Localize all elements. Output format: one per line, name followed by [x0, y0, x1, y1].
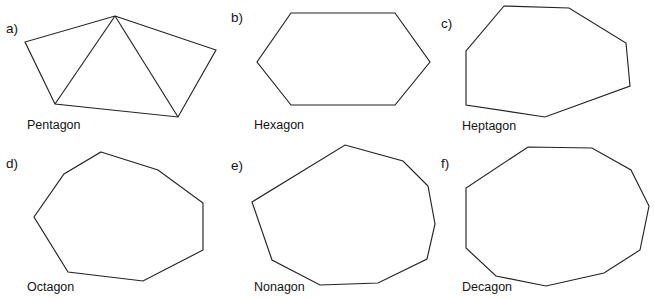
hexagon-label: Hexagon [254, 118, 304, 132]
heptagon-label: Heptagon [462, 119, 516, 133]
nonagon-shape [252, 145, 435, 285]
decagon-enumerator: f) [441, 156, 449, 171]
decagon-shape [466, 147, 649, 286]
polygon-canvas: a) Pentagon b) Hexagon c) Heptagon d) Oc… [0, 0, 655, 300]
panel-decagon: f) Decagon [441, 147, 649, 294]
heptagon-shape [466, 6, 630, 117]
hexagon-enumerator: b) [231, 10, 243, 25]
pentagon-enumerator: a) [6, 21, 18, 36]
decagon-label: Decagon [462, 280, 512, 294]
panel-nonagon: e) Nonagon [231, 145, 435, 294]
octagon-enumerator: d) [6, 156, 18, 171]
panel-pentagon: a) Pentagon [6, 16, 216, 132]
panel-hexagon: b) Hexagon [231, 10, 430, 132]
hexagon-shape [257, 13, 430, 105]
pentagon-label: Pentagon [27, 118, 81, 132]
octagon-label: Octagon [27, 280, 74, 294]
octagon-shape [34, 152, 203, 281]
heptagon-enumerator: c) [441, 16, 452, 31]
panel-octagon: d) Octagon [6, 152, 203, 294]
polygon-figure: a) Pentagon b) Hexagon c) Heptagon d) Oc… [0, 0, 655, 300]
panel-heptagon: c) Heptagon [441, 6, 630, 133]
pentagon-shape [25, 16, 216, 117]
nonagon-label: Nonagon [254, 280, 305, 294]
nonagon-enumerator: e) [231, 158, 243, 173]
